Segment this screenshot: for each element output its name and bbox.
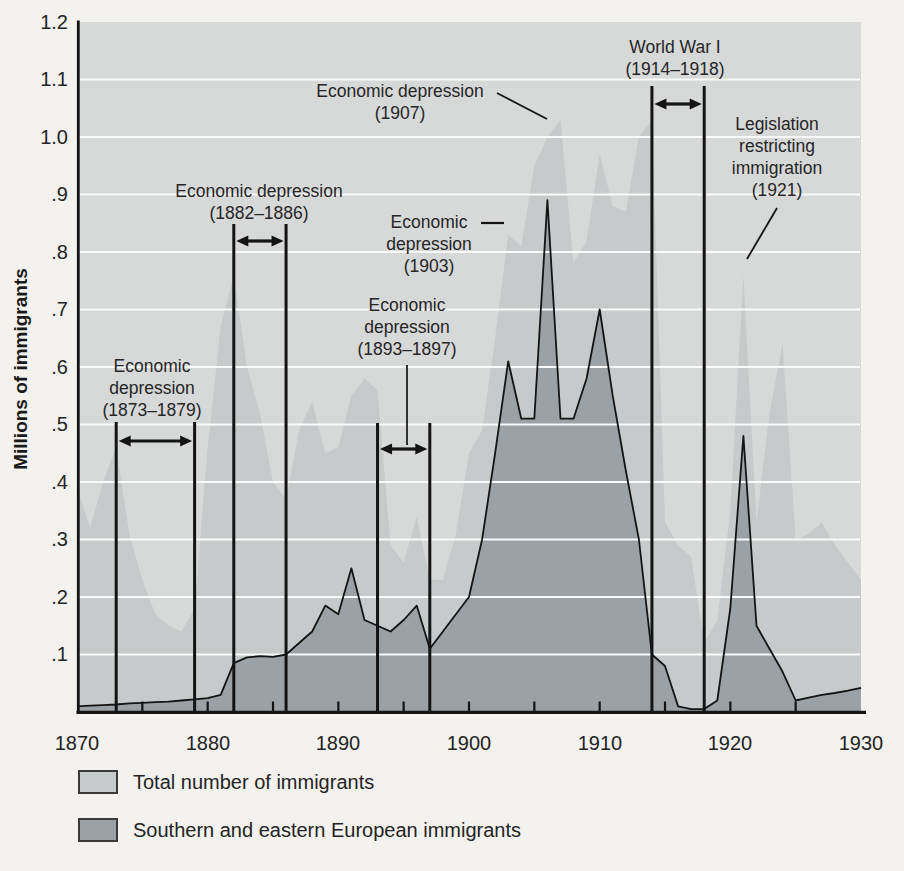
annotation-text-line: Economic depression	[175, 180, 342, 202]
legend-swatch-total	[78, 770, 118, 794]
y-tick-label: .2	[18, 586, 68, 608]
annotation-depression-1903: Economic depression (1903)	[386, 211, 472, 277]
y-tick-label: .1	[18, 643, 68, 665]
annotation-legislation-1921: Legislation restricting immigration (192…	[732, 113, 822, 201]
x-tick-label: 1870	[37, 731, 117, 755]
x-tick-label: 1890	[298, 731, 378, 755]
annotation-depression-1893-1897: Economic depression (1893–1897)	[357, 294, 456, 360]
legend-item-total: Total number of immigrants	[78, 770, 374, 794]
y-tick-label: .8	[18, 241, 68, 263]
annotation-text-line: depression	[357, 316, 456, 338]
annotation-text-line: depression	[386, 233, 472, 255]
annotation-text-line: Economic	[386, 211, 472, 233]
immigration-chart-page: Millions of immigrants 1.2 1.1 1.0 .9 .8…	[0, 0, 904, 871]
annotation-text-line: (1882–1886)	[175, 202, 342, 224]
annotation-text-line: (1893–1897)	[357, 338, 456, 360]
annotation-text-line: Legislation	[732, 113, 822, 135]
annotation-text-line: World War I	[625, 36, 724, 58]
legend-label-southern: Southern and eastern European immigrants	[133, 819, 521, 842]
x-tick-label: 1920	[690, 731, 770, 755]
annotation-depression-1907: Economic depression (1907)	[316, 80, 483, 124]
x-tick-label: 1910	[560, 731, 640, 755]
annotation-text-line: (1921)	[732, 179, 822, 201]
annotation-text-line: (1914–1918)	[625, 58, 724, 80]
annotation-depression-1882-1886: Economic depression (1882–1886)	[175, 180, 342, 224]
annotation-depression-1873-1879: Economic depression (1873–1879)	[102, 355, 201, 421]
annotation-world-war-1: World War I (1914–1918)	[625, 36, 724, 80]
annotation-text-line: Economic	[102, 355, 201, 377]
annotation-text-line: immigration	[732, 157, 822, 179]
y-tick-label: 1.1	[18, 68, 68, 90]
y-tick-label: 1.2	[18, 11, 68, 33]
y-tick-label: .3	[18, 528, 68, 550]
y-tick-label: 1.0	[18, 126, 68, 148]
legend-item-southern: Southern and eastern European immigrants	[78, 818, 521, 842]
x-tick-label: 1930	[821, 731, 901, 755]
annotation-text-line: depression	[102, 377, 201, 399]
legend-swatch-southern	[78, 818, 118, 842]
y-tick-label: .6	[18, 356, 68, 378]
annotation-text-line: Economic	[357, 294, 456, 316]
y-tick-label: .5	[18, 413, 68, 435]
annotation-text-line: (1907)	[316, 102, 483, 124]
annotation-text-line: Economic depression	[316, 80, 483, 102]
legend-label-total: Total number of immigrants	[133, 771, 374, 794]
y-tick-label: .4	[18, 471, 68, 493]
y-tick-label: .7	[18, 298, 68, 320]
annotation-text-line: (1873–1879)	[102, 399, 201, 421]
y-tick-label: .9	[18, 183, 68, 205]
x-tick-label: 1880	[168, 731, 248, 755]
annotation-text-line: restricting	[732, 135, 822, 157]
annotation-text-line: (1903)	[386, 255, 472, 277]
x-tick-label: 1900	[429, 731, 509, 755]
